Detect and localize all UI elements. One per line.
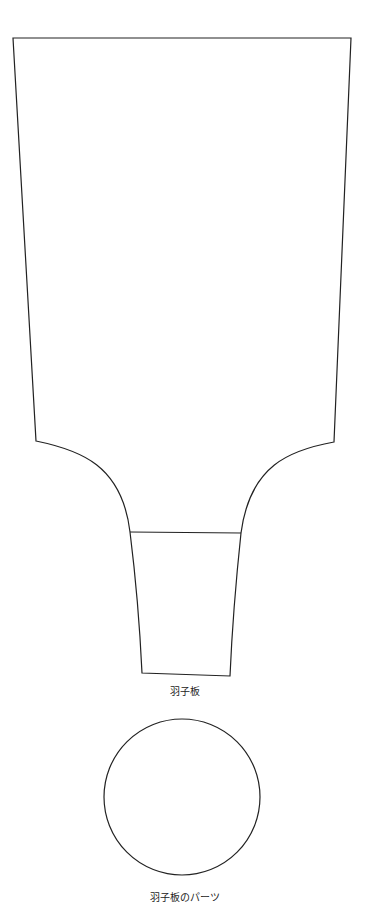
part-circle-label: 羽子板のパーツ <box>0 892 370 904</box>
part-circle <box>104 719 260 875</box>
paddle-outline <box>13 38 351 676</box>
paddle-label: 羽子板 <box>0 686 370 698</box>
diagram-canvas <box>0 0 370 922</box>
handle-divider-line <box>130 532 241 533</box>
